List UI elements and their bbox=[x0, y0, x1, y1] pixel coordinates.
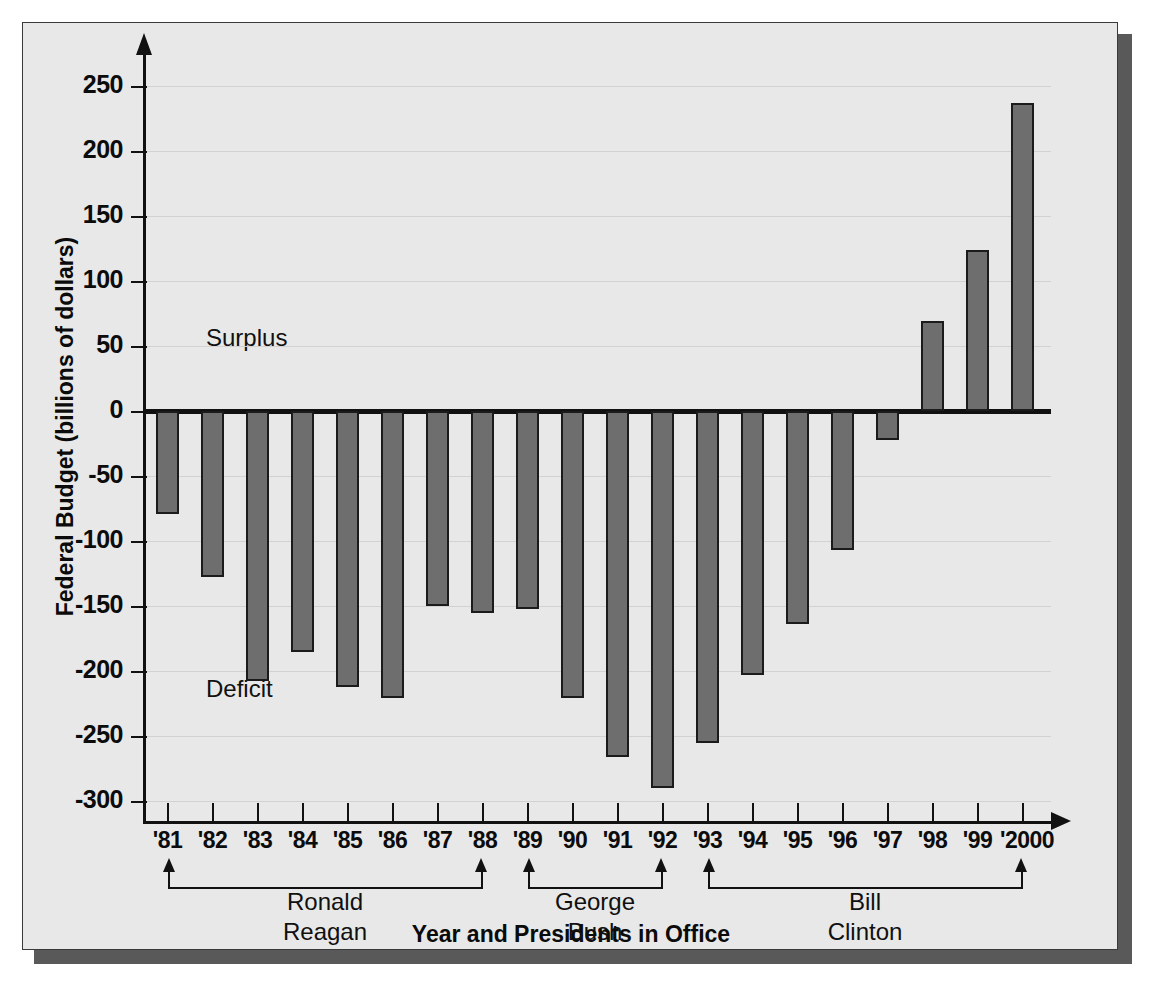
x-axis-tick bbox=[302, 803, 304, 821]
x-axis-tick-label: '91 bbox=[595, 827, 640, 854]
y-axis-tick-label: -200 bbox=[31, 655, 123, 684]
bar bbox=[966, 250, 989, 411]
x-axis-tick-label: '96 bbox=[820, 827, 865, 854]
y-axis-tick bbox=[131, 86, 147, 88]
y-axis-tick-label: 100 bbox=[31, 265, 123, 294]
x-axis-tick-label: '87 bbox=[415, 827, 460, 854]
bracket-arrow-right-icon bbox=[1015, 858, 1027, 872]
y-axis-tick-label: 150 bbox=[31, 200, 123, 229]
gridline bbox=[145, 281, 1051, 282]
gridline bbox=[145, 606, 1051, 607]
plot-area: Federal Budget (billions of dollars) Sur… bbox=[23, 23, 1119, 951]
x-axis-tick-label: '94 bbox=[730, 827, 775, 854]
x-axis-tick bbox=[167, 803, 169, 821]
gridline bbox=[145, 216, 1051, 217]
x-axis-tick-label: '89 bbox=[505, 827, 550, 854]
x-axis-arrow-icon bbox=[1051, 812, 1071, 830]
bar bbox=[561, 411, 584, 698]
bar bbox=[606, 411, 629, 757]
y-axis-tick bbox=[131, 411, 147, 413]
bar bbox=[876, 411, 899, 440]
x-axis-tick-label: '85 bbox=[325, 827, 370, 854]
x-axis-tick-label: '2000 bbox=[1000, 827, 1045, 854]
x-axis-tick bbox=[887, 803, 889, 821]
gridline bbox=[145, 151, 1051, 152]
x-axis-tick bbox=[1022, 803, 1024, 821]
x-axis-tick bbox=[662, 803, 664, 821]
x-axis-tick bbox=[707, 803, 709, 821]
y-axis-tick-label: 50 bbox=[31, 330, 123, 359]
x-axis-tick bbox=[617, 803, 619, 821]
x-axis-tick-label: '86 bbox=[370, 827, 415, 854]
x-axis-tick bbox=[797, 803, 799, 821]
bracket-arrow-right-icon bbox=[655, 858, 667, 872]
surplus-annotation: Surplus bbox=[206, 324, 287, 352]
y-axis-tick bbox=[131, 216, 147, 218]
x-axis-tick bbox=[842, 803, 844, 821]
bracket-arrow-left-icon bbox=[523, 858, 535, 872]
x-axis-tick-label: '82 bbox=[190, 827, 235, 854]
chart-page: Federal Budget (billions of dollars) Sur… bbox=[0, 0, 1154, 986]
y-axis-tick-label: -300 bbox=[31, 785, 123, 814]
x-axis-tick bbox=[932, 803, 934, 821]
bar bbox=[381, 411, 404, 698]
x-axis-tick-label: '83 bbox=[235, 827, 280, 854]
x-axis-tick-label: '99 bbox=[955, 827, 1000, 854]
x-axis-tick bbox=[437, 803, 439, 821]
gridline bbox=[145, 86, 1051, 87]
y-axis-tick-label: -100 bbox=[31, 525, 123, 554]
y-axis-tick bbox=[131, 541, 147, 543]
bar bbox=[651, 411, 674, 788]
y-axis-tick bbox=[131, 476, 147, 478]
gridline bbox=[145, 801, 1051, 802]
chart-panel: Federal Budget (billions of dollars) Sur… bbox=[22, 22, 1118, 950]
bar bbox=[786, 411, 809, 624]
bar bbox=[696, 411, 719, 743]
x-axis-tick-label: '84 bbox=[280, 827, 325, 854]
x-axis-tick-label: '97 bbox=[865, 827, 910, 854]
bar bbox=[741, 411, 764, 675]
bar bbox=[426, 411, 449, 606]
x-axis-tick-label: '88 bbox=[460, 827, 505, 854]
x-axis-tick bbox=[212, 803, 214, 821]
y-axis-tick bbox=[131, 606, 147, 608]
x-axis-tick bbox=[347, 803, 349, 821]
y-axis-tick-label: -250 bbox=[31, 720, 123, 749]
x-axis-tick bbox=[257, 803, 259, 821]
x-axis-tick-label: '93 bbox=[685, 827, 730, 854]
x-axis-tick-label: '98 bbox=[910, 827, 955, 854]
bar bbox=[831, 411, 854, 550]
bar bbox=[201, 411, 224, 577]
bar bbox=[921, 321, 944, 411]
y-axis-tick-label: 0 bbox=[31, 395, 123, 424]
y-axis-tick-label: 250 bbox=[31, 70, 123, 99]
x-axis-tick-label: '95 bbox=[775, 827, 820, 854]
y-axis-tick bbox=[131, 801, 147, 803]
bracket-arrow-left-icon bbox=[703, 858, 715, 872]
gridline bbox=[145, 476, 1051, 477]
y-axis-tick-label: 200 bbox=[31, 135, 123, 164]
bar bbox=[246, 411, 269, 681]
bar bbox=[336, 411, 359, 687]
x-axis-tick-label: '81 bbox=[145, 827, 190, 854]
bar bbox=[291, 411, 314, 652]
y-axis-line bbox=[143, 53, 146, 823]
y-axis-arrow-icon bbox=[136, 33, 152, 55]
x-axis-tick bbox=[977, 803, 979, 821]
bracket-arrow-left-icon bbox=[163, 858, 175, 872]
gridline bbox=[145, 346, 1051, 347]
gridline bbox=[145, 541, 1051, 542]
bar bbox=[1011, 103, 1034, 411]
bar bbox=[471, 411, 494, 613]
bracket-arrow-right-icon bbox=[475, 858, 487, 872]
x-axis-tick bbox=[482, 803, 484, 821]
y-axis-tick-label: -50 bbox=[31, 460, 123, 489]
x-axis-tick bbox=[572, 803, 574, 821]
x-axis-line bbox=[143, 821, 1053, 824]
y-axis-tick bbox=[131, 671, 147, 673]
bar bbox=[516, 411, 539, 609]
x-axis-tick bbox=[527, 803, 529, 821]
bar bbox=[156, 411, 179, 514]
y-axis-tick bbox=[131, 151, 147, 153]
gridline bbox=[145, 736, 1051, 737]
